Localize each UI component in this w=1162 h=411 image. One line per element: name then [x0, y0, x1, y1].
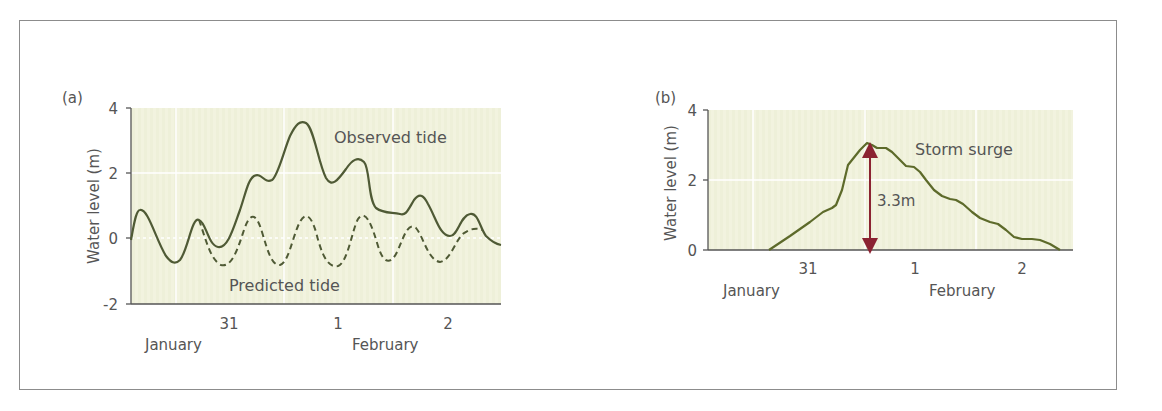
ytick-a-0: 0 — [108, 230, 118, 248]
ylabel-a: Water level (m) — [85, 148, 103, 264]
ytick-a-neg2: -2 — [103, 296, 118, 314]
ytick-a-2: 2 — [108, 165, 118, 183]
observed-tide-label: Observed tide — [334, 128, 447, 147]
month-b-february: February — [929, 282, 996, 300]
xtick-a-31: 31 — [219, 315, 238, 333]
panel-a-label: (a) — [62, 89, 83, 107]
month-a-february: February — [352, 336, 419, 354]
ytick-b-4: 4 — [687, 102, 697, 120]
predicted-tide-label: Predicted tide — [229, 276, 340, 295]
ytick-b-0: 0 — [687, 242, 697, 260]
xtick-b-2: 2 — [1017, 260, 1027, 278]
month-b-january: January — [722, 282, 780, 300]
surge-height-label: 3.3m — [877, 192, 915, 210]
xtick-a-1: 1 — [333, 315, 343, 333]
xtick-b-31: 31 — [798, 260, 817, 278]
chart-b: (b) 4 2 0 Water level (m) 31 1 2 January… — [655, 89, 1073, 300]
ytick-b-2: 2 — [687, 172, 697, 190]
panel-b-label: (b) — [655, 89, 676, 107]
xtick-a-2: 2 — [443, 315, 453, 333]
figure-canvas: (a) 4 2 0 -2 Water level (m) 31 1 — [0, 0, 1162, 411]
chart-a: (a) 4 2 0 -2 Water level (m) 31 1 — [62, 89, 501, 354]
ylabel-b: Water level (m) — [662, 125, 680, 241]
xtick-b-1: 1 — [910, 260, 920, 278]
storm-surge-label: Storm surge — [915, 140, 1013, 159]
ytick-a-4: 4 — [108, 100, 118, 118]
month-a-january: January — [144, 336, 202, 354]
